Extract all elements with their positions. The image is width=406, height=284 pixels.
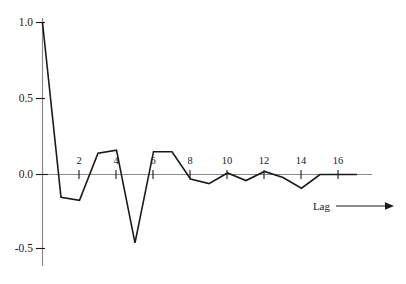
x-tick-label-12: 12 xyxy=(259,155,270,166)
y-tick-label-0.5: 0.5 xyxy=(19,92,34,104)
y-tick-label-0.0: 0.0 xyxy=(19,168,34,180)
x-tick-label-8: 8 xyxy=(187,155,192,166)
x-tick-label-14: 14 xyxy=(296,155,307,166)
autocorrelation-line xyxy=(43,23,358,243)
y-tick-label-minus0.5: -0.5 xyxy=(15,242,33,254)
chart-figure: 1.0 0.5 0.0 -0.5 2 4 6 8 10 12 14 16 Lag xyxy=(0,0,406,284)
x-tick-label-16: 16 xyxy=(333,155,344,166)
x-axis-name-label: Lag xyxy=(313,200,331,212)
x-tick-label-10: 10 xyxy=(222,155,233,166)
lag-arrow-head-icon xyxy=(385,202,394,210)
autocorrelation-plot: 1.0 0.5 0.0 -0.5 2 4 6 8 10 12 14 16 Lag xyxy=(0,0,406,284)
x-tick-label-2: 2 xyxy=(76,155,81,166)
y-tick-label-1.0: 1.0 xyxy=(19,16,34,28)
